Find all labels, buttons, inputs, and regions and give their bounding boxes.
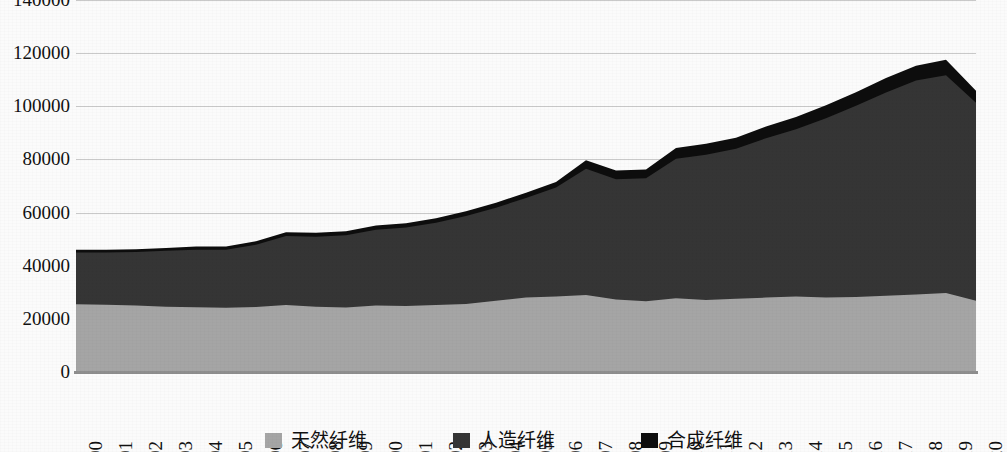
y-axis-tick-label: 120000 [2,43,70,62]
y-axis-tick-label: 20000 [2,309,70,328]
area-series-group [76,0,976,372]
legend-item[interactable]: 人造纤维 [453,430,555,450]
legend-label: 合成纤维 [667,430,743,450]
plot-area [76,0,976,372]
stacked-area-chart: 020000400006000080000100000120000140000 … [0,0,1007,452]
x-axis-line [74,371,978,374]
y-axis-tick-label: 140000 [2,0,70,9]
chart-page: 020000400006000080000100000120000140000 … [0,0,1007,452]
y-axis-tick-label: 40000 [2,256,70,275]
y-axis-tick-label: 60000 [2,203,70,222]
legend-swatch-synthetic-fiber [641,433,658,448]
chart-legend: 天然纤维人造纤维合成纤维 [0,430,1007,452]
legend-label: 人造纤维 [479,430,555,450]
legend-swatch-natural-fiber [265,433,282,448]
y-axis: 020000400006000080000100000120000140000 [0,0,70,452]
legend-label: 天然纤维 [291,430,367,450]
legend-item[interactable]: 合成纤维 [641,430,743,450]
legend-item[interactable]: 天然纤维 [265,430,367,450]
y-axis-tick-label: 0 [2,362,70,381]
legend-swatch-manmade-fiber [453,433,470,448]
y-axis-tick-label: 80000 [2,149,70,168]
y-axis-tick-label: 100000 [2,96,70,115]
x-axis: 1990199119921993199419951996199719981999… [76,375,976,427]
